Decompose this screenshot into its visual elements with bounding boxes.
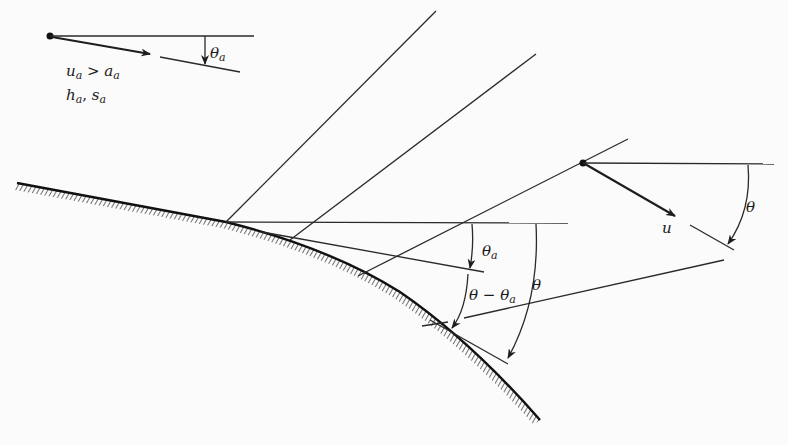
upstream-inset: θa ua > aa ha, sa (47, 33, 255, 107)
local-velocity-label: u (662, 219, 672, 237)
horizontal-reference-line (226, 222, 568, 223)
upstream-flow-direction-line (160, 57, 240, 72)
upstream-condition-supersonic: ua > aa (66, 62, 120, 82)
wall-hatching (15, 183, 540, 425)
local-state-inset: u θ (580, 160, 775, 251)
local-horizontal-reference (583, 163, 774, 164)
upstream-angle-label: θa (210, 44, 226, 64)
theta-a-label: θa (482, 242, 498, 262)
local-velocity-arrow-icon (585, 164, 675, 216)
theta-label: θ (532, 276, 541, 294)
first-mach-wave (226, 11, 436, 222)
local-theta-label: θ (746, 198, 755, 216)
expansion-fan-diagram: θa ua > aa ha, sa θa θ − θa θ u (0, 0, 788, 445)
wall-angle-arcs: θa θ − θa θ (452, 224, 541, 358)
theta-a-direction-line (262, 232, 484, 272)
theta-a-arc-icon (470, 224, 473, 268)
second-mach-wave (290, 54, 536, 240)
local-flow-direction-line-right (690, 225, 734, 250)
theta-minus-theta-a-arc-icon (452, 274, 468, 328)
upstream-velocity-arrow-icon (52, 37, 150, 54)
theta-minus-theta-a-label: θ − θa (469, 286, 516, 306)
convex-wall (15, 183, 540, 425)
upstream-condition-enthalpy-entropy: ha, sa (66, 86, 106, 106)
wall-surface-line (17, 183, 540, 420)
